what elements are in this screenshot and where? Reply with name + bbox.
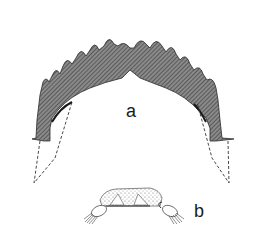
right-appendage — [161, 203, 180, 219]
panel-label-b: b — [194, 202, 204, 220]
illustration — [0, 0, 258, 248]
stippled-body — [100, 188, 162, 206]
panel-label-a: a — [126, 102, 136, 120]
panel-b-structure — [84, 188, 184, 224]
